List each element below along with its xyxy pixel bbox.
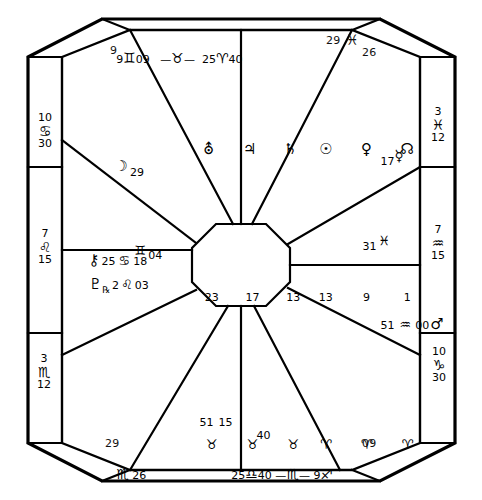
aquarius-icon-mars: ♒ xyxy=(400,317,412,332)
leo-icon: ♌ xyxy=(28,240,62,255)
cusp-top-right-minute: 26 xyxy=(362,47,377,58)
cusp-bottom-left-degree: 29 xyxy=(105,438,120,449)
cusp-left-mid: 7 ♌ 15 xyxy=(28,228,62,266)
cancer-icon: ♋ xyxy=(28,124,62,139)
mars-degree: 00 xyxy=(415,319,429,332)
mars-icon: ♂ xyxy=(430,315,443,333)
leo-icon-pluto: ♌ xyxy=(121,277,133,292)
moon-minute: 04 xyxy=(148,249,162,262)
cusp-top-right-degree: 29 xyxy=(326,35,341,46)
astrology-chart-wheel: 9♊09 —♉— 25♈40 ♏ 26 25♎40 —♏— 9♐ 9 29 ♓ … xyxy=(0,0,482,500)
planet-pluto: ♇℞2♌03 xyxy=(58,226,149,346)
jupiter-icon: ♃ xyxy=(229,142,270,158)
jupiter-degree: 17 xyxy=(232,292,273,304)
aries-icon-sun: ♈ xyxy=(306,438,347,452)
cusp-left-mid-degree: 7 xyxy=(28,228,62,240)
pluto-icon: ♇ xyxy=(89,275,102,293)
cusp-left-mid-minute: 15 xyxy=(28,254,62,266)
pisces-icon-top-right: ♓ xyxy=(346,33,359,47)
pluto-minute: 03 xyxy=(135,279,149,292)
moon-icon: ☽ xyxy=(115,157,128,175)
mercury-icon: ☿ xyxy=(395,147,404,165)
cusp-top-left-degree: 9 xyxy=(110,45,117,56)
aries-icon-venus: ♈ xyxy=(346,438,387,452)
cusp-left-upper-minute: 30 xyxy=(28,138,62,150)
scorpio-icon-left: ♏ xyxy=(26,365,62,380)
uranus-icon: ⛢ xyxy=(189,142,230,158)
bottom-axis-left-label: ♏ 26 xyxy=(101,452,146,496)
top-left-minute: 09 xyxy=(136,53,150,66)
uranus-degree: 23 xyxy=(192,292,233,304)
cusp-left-lower: 3 ♏ 12 xyxy=(26,353,62,391)
pluto-degree: 2 xyxy=(112,279,119,292)
part-of-fortune-minute: 40 xyxy=(257,429,271,442)
pluto-retrograde-marker: ℞ xyxy=(102,286,110,296)
aries-stellium-sign-row: ♈ ♈ ♈ xyxy=(275,388,428,500)
mars-minute: 51 xyxy=(381,319,395,332)
moon-degree: 29 xyxy=(130,166,144,179)
gemini-icon: ♊ xyxy=(123,50,136,66)
aries-icon-north-node: ♈ xyxy=(387,438,428,452)
mercury-degree: 17 xyxy=(381,155,395,168)
scorpio-icon-bottom-left: ♏ xyxy=(116,466,129,482)
cusp-left-upper: 10 ♋ 30 xyxy=(28,112,62,150)
planet-part-of-fortune: 40 ♎ 23 ⊕ xyxy=(226,376,248,500)
cusp-left-lower-degree: 3 xyxy=(26,353,62,365)
cusp-left-upper-degree: 10 xyxy=(28,112,62,124)
mercury-minute: 31 xyxy=(363,240,377,253)
planet-mars: 51♒00♂ xyxy=(350,266,444,384)
cusp-left-lower-minute: 12 xyxy=(26,379,62,391)
pisces-icon-mercury: ♓ xyxy=(379,233,391,248)
